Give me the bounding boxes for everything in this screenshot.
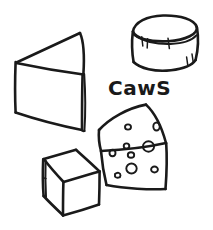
wheel-bottom-curve [134,60,196,71]
wheel-top-ellipse-back [133,15,197,31]
swiss-hole-top-2 [153,123,159,131]
cube-top-right-edge [76,150,100,172]
label-text: CawS [108,76,171,100]
swiss-top-left-edge [99,130,101,151]
cube-top-front-edge [64,171,100,182]
wedge-plain-top-back-edge [17,33,81,63]
swiss-hole-front-1 [124,143,130,148]
sketch-canvas: CawS [0,0,213,230]
cube-right-vertical-edge [99,172,100,205]
wheel-tick-mark-5 [192,54,193,62]
wheel-tick-mark-3 [168,38,169,48]
swiss-hole-front-6 [115,173,121,178]
swiss-hole-top-1 [125,124,131,129]
cheese-wedge-swiss [99,105,167,190]
cube-top-back-edge [44,159,64,182]
wedge-plain-front-right-edge [82,75,83,130]
wheel-tick-mark-1 [142,37,143,46]
swiss-bottom-edge [107,185,166,189]
swiss-left-vertical-edge [101,151,107,185]
wheel-tick-mark-4 [187,57,188,65]
swiss-hole-front-5 [151,167,158,173]
wedge-plain-bottom-edge [16,113,82,131]
wedge-plain-top-right-curve [80,33,84,75]
cube-left-face-notch [44,178,46,179]
wedge-plain-outer-right-edge [84,74,85,131]
wheel-left-wall [132,32,133,62]
wedge-plain-top-front-edge [16,63,83,75]
wedge-plain-left-edge [15,62,16,113]
cheese-wedge-plain [15,33,85,131]
swiss-hole-front-4 [126,164,136,174]
swiss-top-back-edge [99,105,146,130]
swiss-top-right-edge [146,105,166,143]
cheese-drawing: CawS [0,0,213,230]
swiss-hole-front-3 [128,152,134,158]
cheese-block-cube [43,150,100,216]
handwritten-label: CawS [108,76,171,100]
cube-top-left-edge [44,150,76,159]
swiss-right-vertical-edge [166,143,167,189]
cube-left-bottom-edge [44,196,63,215]
wedge-plain-bottom-right-corner [82,130,85,131]
cheese-wheel-cylinder [132,15,198,70]
cube-bottom-front-edge [63,205,99,216]
